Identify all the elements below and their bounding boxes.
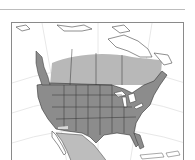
header-divider xyxy=(0,9,185,10)
range-map xyxy=(11,22,184,160)
secondary-range-canada xyxy=(50,54,162,85)
caribbean-islands xyxy=(140,151,180,159)
map-canvas xyxy=(12,23,184,160)
